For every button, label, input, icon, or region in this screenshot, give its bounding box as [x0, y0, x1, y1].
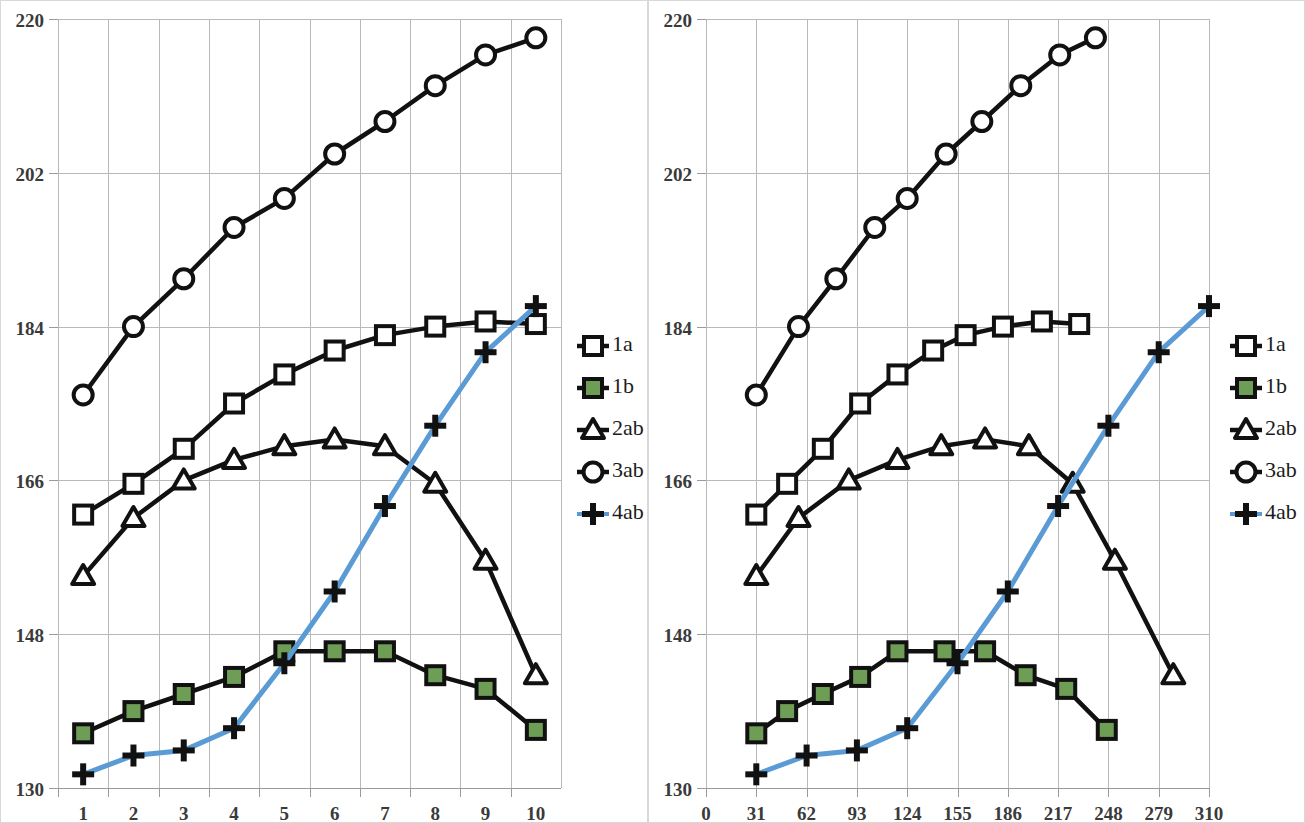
data-point-marker	[225, 668, 243, 686]
legend-item-1b[interactable]: 1b	[577, 373, 634, 398]
data-point-marker	[1033, 312, 1051, 330]
legend-marker-1a	[1237, 337, 1255, 355]
legend-item-3ab[interactable]: 3ab	[577, 457, 644, 482]
legend-marker-3ab	[584, 463, 603, 482]
legend-label-2ab: 2ab	[612, 415, 644, 440]
data-point-marker	[426, 76, 445, 95]
series-2ab	[72, 428, 547, 683]
y-tick-label: 220	[16, 10, 45, 31]
legend-label-4ab: 4ab	[1265, 499, 1297, 524]
data-point-marker	[326, 342, 344, 360]
data-point-marker	[846, 739, 868, 761]
data-point-marker	[826, 269, 845, 288]
data-point-marker	[173, 739, 195, 761]
legend-item-4ab[interactable]: 4ab	[577, 499, 644, 525]
gridlines	[58, 19, 562, 789]
data-point-marker	[273, 435, 295, 454]
data-point-marker	[124, 317, 143, 336]
data-point-marker	[747, 506, 765, 524]
data-point-marker	[477, 680, 495, 698]
legend-item-1a[interactable]: 1a	[577, 331, 633, 356]
legend-item-1b[interactable]: 1b	[1230, 373, 1287, 398]
legend-marker-4ab	[582, 503, 604, 525]
data-point-marker	[124, 475, 142, 493]
data-point-marker	[225, 218, 244, 237]
x-tick-label: 248	[1094, 803, 1123, 823]
legend-marker-2ab	[1235, 419, 1257, 438]
data-point-marker	[1104, 550, 1126, 569]
y-tick-label: 166	[16, 471, 45, 492]
data-point-marker	[838, 469, 860, 488]
legend-label-3ab: 3ab	[612, 457, 644, 482]
legend-marker-3ab	[1237, 463, 1256, 482]
data-point-marker	[375, 112, 394, 131]
data-point-marker	[747, 385, 766, 404]
series-line	[756, 651, 1107, 733]
data-point-marker	[1050, 45, 1069, 64]
data-point-marker	[937, 145, 956, 164]
x-tick-label: 155	[943, 803, 972, 823]
data-point-marker	[747, 724, 765, 742]
x-tick-label: 8	[431, 803, 441, 823]
x-tick-label: 0	[701, 803, 711, 823]
legend-item-2ab[interactable]: 2ab	[1230, 415, 1297, 440]
legend-label-3ab: 3ab	[1265, 457, 1297, 482]
y-tick-label: 220	[664, 10, 693, 31]
data-point-marker	[122, 745, 144, 767]
series-2ab	[745, 428, 1184, 683]
data-point-marker	[976, 642, 994, 660]
data-point-marker	[1086, 28, 1105, 47]
data-point-marker	[477, 312, 495, 330]
data-point-marker	[886, 449, 908, 468]
x-tick-label: 1	[78, 803, 88, 823]
data-point-marker	[972, 112, 991, 131]
x-tick-label: 31	[747, 803, 766, 823]
series-line	[83, 651, 536, 733]
legend-label-4ab: 4ab	[612, 499, 644, 524]
data-point-marker	[1070, 315, 1088, 333]
x-tick-label: 10	[526, 803, 545, 823]
data-point-marker	[888, 642, 906, 660]
data-point-marker	[124, 702, 142, 720]
data-point-marker	[326, 642, 344, 660]
data-point-marker	[814, 440, 832, 458]
series-line	[83, 38, 536, 395]
left-chart-canvas: 130148166184202220123456789101a1b2ab3ab4…	[1, 1, 649, 823]
data-point-marker	[376, 642, 394, 660]
legend-marker-4ab	[1235, 503, 1257, 525]
legend-item-3ab[interactable]: 3ab	[1230, 457, 1297, 482]
data-point-marker	[325, 145, 344, 164]
legend-item-2ab[interactable]: 2ab	[577, 415, 644, 440]
data-point-marker	[778, 475, 796, 493]
legend-label-1a: 1a	[612, 331, 633, 356]
series-line	[83, 439, 536, 675]
legend-label-1a: 1a	[1265, 331, 1286, 356]
data-point-marker	[324, 428, 346, 447]
right-chart-panel: 1301481661842022200316293124155186217248…	[648, 0, 1305, 823]
series-1b	[74, 642, 545, 742]
series-1b	[747, 642, 1115, 742]
legend-item-1a[interactable]: 1a	[1230, 331, 1286, 356]
data-point-marker	[426, 666, 444, 684]
series-1a	[74, 312, 545, 523]
data-point-marker	[1011, 76, 1030, 95]
y-tick-label: 166	[664, 471, 693, 492]
x-tick-label: 279	[1144, 803, 1173, 823]
data-point-marker	[175, 685, 193, 703]
legend: 1a1b2ab3ab4ab	[577, 331, 644, 525]
data-point-marker	[223, 449, 245, 468]
right-chart-canvas: 1301481661842022200316293124155186217248…	[649, 1, 1305, 823]
data-point-marker	[525, 664, 547, 683]
data-point-marker	[74, 385, 93, 404]
data-point-marker	[1162, 664, 1184, 683]
y-tick-label: 202	[16, 164, 45, 185]
data-point-marker	[173, 469, 195, 488]
legend-label-1b: 1b	[1265, 373, 1287, 398]
data-point-marker	[1098, 721, 1116, 739]
data-point-marker	[924, 342, 942, 360]
series-line	[83, 322, 536, 515]
legend-item-4ab[interactable]: 4ab	[1230, 499, 1297, 525]
data-point-marker	[745, 763, 767, 785]
data-point-marker	[74, 724, 92, 742]
legend-marker-2ab	[582, 419, 604, 438]
